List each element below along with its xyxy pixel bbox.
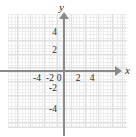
y-tick-label-4: 4 xyxy=(57,28,62,38)
coordinate-plane-figure: x y -4 -2 0 2 4 4 2 -2 -4 xyxy=(0,0,136,137)
x-tick-label-2: 2 xyxy=(76,74,81,84)
x-tick-label-4: 4 xyxy=(90,74,95,84)
x-tick-label-minus-4: -4 xyxy=(33,74,41,84)
y-tick-text-minus-2: -2 xyxy=(49,84,57,94)
y-tick-text-minus-4: -4 xyxy=(49,105,57,115)
x-axis-line xyxy=(0,70,116,72)
y-tick-label-minus-2: -2 xyxy=(57,84,65,94)
y-tick-label-minus-4: -4 xyxy=(57,105,65,115)
y-axis-arrow-icon xyxy=(59,12,69,19)
x-axis-label: x xyxy=(125,65,130,76)
y-tick-text-2: 2 xyxy=(52,46,57,56)
y-axis-label: y xyxy=(59,2,64,13)
origin-label: 0 xyxy=(57,74,62,84)
y-tick-label-2: 2 xyxy=(57,46,62,56)
x-tick-label-minus-2: -2 xyxy=(46,74,54,84)
x-axis-arrow-icon xyxy=(115,66,122,76)
y-axis-line xyxy=(63,18,65,136)
y-tick-text-4: 4 xyxy=(52,28,57,38)
